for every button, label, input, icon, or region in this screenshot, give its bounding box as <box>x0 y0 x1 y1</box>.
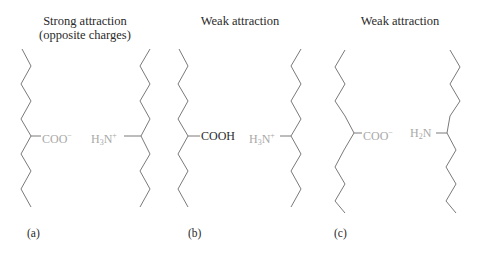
panel-b-label: (b) <box>188 227 201 239</box>
hydrocarbon-chains-diagram <box>0 0 481 256</box>
panel-b-carboxylic-acid-label: COOH <box>201 129 235 143</box>
group-tail: N <box>423 126 432 140</box>
panel-b-ammonium-label: H3N+ <box>249 129 275 150</box>
panel-b-left-chain <box>178 49 188 207</box>
panel-c-amine-label: H2N <box>410 126 431 144</box>
group-base: H <box>249 132 258 146</box>
group-base: COO <box>42 132 67 146</box>
panel-a-carboxylate-label: COO− <box>42 129 72 146</box>
group-base: H <box>91 132 100 146</box>
group-charge: − <box>388 128 393 137</box>
group-base: COOH <box>201 129 235 143</box>
panel-c-right-chain <box>446 50 460 213</box>
panel-c-left-chain <box>335 50 354 213</box>
panel-b-right-chain <box>291 49 301 207</box>
panel-c-carboxylate-label: COO− <box>363 126 393 143</box>
group-charge: + <box>112 131 117 140</box>
group-base: H <box>410 126 419 140</box>
group-base: COO <box>363 129 388 143</box>
group-charge: − <box>67 131 72 140</box>
panel-a-ammonium-label: H3N+ <box>91 129 117 150</box>
panel-a-label: (a) <box>27 227 40 239</box>
group-charge: + <box>270 131 275 140</box>
panel-a-right-chain <box>140 49 150 207</box>
panel-c-label: (c) <box>334 227 347 239</box>
panel-a-left-chain <box>21 49 31 207</box>
